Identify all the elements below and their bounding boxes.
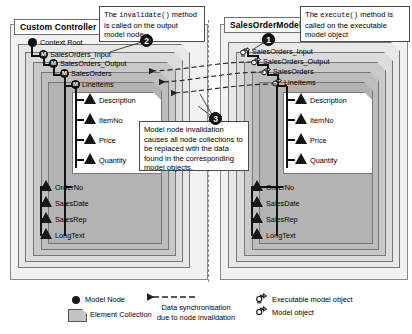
- attribute-node-longtext-R[interactable]: [251, 228, 263, 239]
- attribute-label-salesdate: SalesDate: [55, 200, 89, 208]
- node-label-salesorders-input: SalesOrders_Input: [50, 51, 111, 59]
- attribute-node-description[interactable]: [84, 93, 96, 104]
- panel-title-sales-order-model: SalesOrderModel: [224, 17, 307, 33]
- attribute-label-salesrep-R: SalesRep: [266, 216, 298, 224]
- legend-element-collection-icon: [68, 309, 87, 322]
- node-label-salesorders-R: SalesOrders: [273, 68, 314, 76]
- attribute-label-longtext: LongText: [55, 232, 85, 240]
- panel-title-custom-controller: Custom Controller: [14, 19, 102, 35]
- attribute-node-orderno-R[interactable]: [251, 180, 263, 191]
- attribute-label-salesdate-R: SalesDate: [266, 200, 300, 208]
- attribute-label-quantity-R: Quantity: [310, 157, 337, 165]
- attribute-label-description: Description: [99, 97, 136, 105]
- node-label-salesorders-output: SalesOrders_Output: [60, 60, 127, 68]
- callout-badge-3: 3: [209, 112, 222, 125]
- tree-wire: [75, 99, 84, 101]
- attribute-node-itemno[interactable]: [84, 113, 96, 124]
- invalidate-method-name: invalidate(): [119, 11, 169, 19]
- diagram-canvas: Custom Controller Context Root M SalesOr…: [0, 0, 412, 334]
- attribute-node-description-R[interactable]: [295, 93, 307, 104]
- legend-data-sync-label-line1: Data synchronisation: [146, 303, 246, 312]
- attribute-node-price-R[interactable]: [295, 133, 307, 144]
- callout-1: The execute() method is called on the ex…: [300, 6, 410, 42]
- node-label-lineitems: LineItems: [82, 81, 114, 89]
- model-node-salesorders-input[interactable]: M: [39, 50, 48, 59]
- execute-method-name: execute(): [320, 11, 358, 19]
- legend-model-node-label: Model Node: [85, 295, 125, 304]
- attribute-node-quantity-R[interactable]: [295, 153, 307, 164]
- node-label-salesorders-input-R: SalesOrders_Input: [252, 48, 313, 56]
- attribute-label-longtext-R: LongText: [266, 232, 296, 240]
- tree-wire: [64, 86, 66, 236]
- attribute-node-price[interactable]: [84, 133, 96, 144]
- model-node-salesorders-output[interactable]: M: [49, 59, 58, 68]
- attribute-node-quantity[interactable]: [84, 153, 96, 164]
- callout-1-text: The execute() method is called on the ex…: [305, 10, 393, 39]
- legend-model-object-label: Model object: [272, 308, 314, 317]
- attribute-label-description-R: Description: [310, 97, 347, 105]
- attribute-label-price-R: Price: [310, 137, 327, 145]
- tree-wire: [286, 119, 295, 121]
- node-label-salesorders-output-R: SalesOrders_Output: [263, 58, 330, 66]
- attribute-node-salesdate-R[interactable]: [251, 196, 263, 207]
- attribute-node-salesrep[interactable]: [40, 212, 52, 223]
- tree-wire: [75, 159, 84, 161]
- context-root-label: Context Root: [40, 39, 83, 47]
- attribute-label-itemno-R: ItemNo: [310, 117, 334, 125]
- tree-wire: [40, 186, 50, 188]
- legend-executable-model-object-icon: [256, 293, 270, 305]
- legend-model-node-icon: [72, 296, 80, 304]
- model-node-salesorders[interactable]: M: [60, 69, 69, 78]
- attribute-node-salesrep-R[interactable]: [251, 212, 263, 223]
- attribute-node-itemno-R[interactable]: [295, 113, 307, 124]
- tree-wire: [75, 139, 84, 141]
- attribute-label-orderno: OrderNo: [55, 184, 83, 192]
- tree-wire: [276, 86, 278, 236]
- tree-wire: [286, 159, 295, 161]
- tree-wire: [286, 139, 295, 141]
- callout-badge-2: 2: [140, 34, 153, 47]
- callout-3: Model node invalidation causes all node …: [139, 121, 249, 171]
- node-label-lineitems-R: LineItems: [284, 79, 316, 87]
- context-root-node[interactable]: [28, 38, 37, 47]
- tree-wire: [286, 99, 295, 101]
- attribute-label-itemno: ItemNo: [99, 117, 123, 125]
- legend-element-collection-label: Element Collection: [90, 310, 152, 319]
- legend-executable-model-object-label: Executable model object: [272, 295, 353, 304]
- attribute-label-price: Price: [99, 137, 116, 145]
- attribute-label-salesrep: SalesRep: [55, 216, 87, 224]
- attribute-node-salesdate[interactable]: [40, 196, 52, 207]
- tree-wire: [75, 119, 84, 121]
- legend-model-object-icon: [256, 306, 270, 318]
- attribute-label-quantity: Quantity: [99, 157, 126, 165]
- legend-data-sync-label-line2: due to node invalidation: [146, 313, 246, 322]
- attribute-node-longtext[interactable]: [40, 228, 52, 239]
- attribute-label-orderno-R: OrderNo: [266, 184, 294, 192]
- node-label-salesorders: SalesOrders: [71, 70, 112, 78]
- callout-badge-1: 1: [262, 33, 275, 46]
